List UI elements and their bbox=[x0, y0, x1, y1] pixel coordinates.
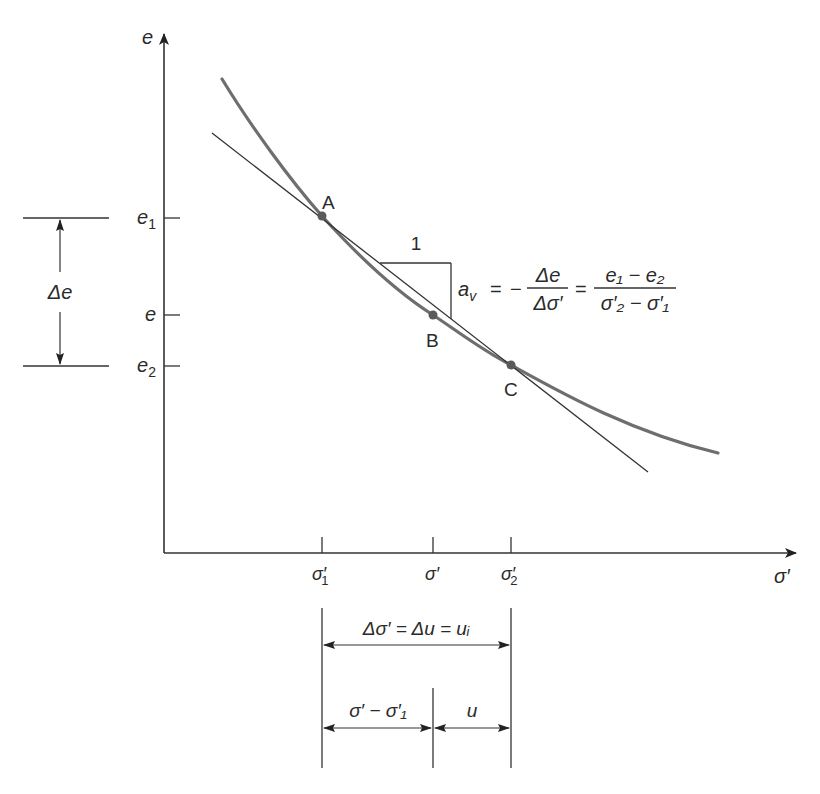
svg-text:σ′₂ − σ′₁: σ′₂ − σ′₁ bbox=[601, 292, 669, 314]
compressibility-formula: av = − Δe Δσ′ = e₁ − e₂ σ′₂ − σ′₁ bbox=[458, 264, 676, 314]
slope-run-label: 1 bbox=[411, 233, 422, 254]
y-ticks bbox=[164, 218, 180, 366]
dimension-left-label: σ′ − σ′₁ bbox=[349, 700, 407, 721]
tick-label-sigma2: σ′2 bbox=[501, 564, 517, 588]
tick-label-e2: e2 bbox=[137, 354, 156, 380]
x-axis-label: σ′ bbox=[774, 565, 791, 587]
consolidation-diagram: e σ′ e1 e e2 σ′1 σ′ σ′2 Δe 1 A B C av bbox=[0, 0, 820, 794]
tick-label-sigma: σ′ bbox=[425, 564, 440, 584]
svg-text:=: = bbox=[490, 278, 502, 300]
tick-label-e: e bbox=[145, 303, 156, 325]
point-c bbox=[507, 361, 516, 370]
dimension-right-label: u bbox=[467, 700, 478, 721]
svg-text:Δe: Δe bbox=[535, 264, 561, 286]
point-b bbox=[429, 311, 438, 320]
chord-line bbox=[212, 133, 648, 472]
svg-text:Δσ′: Δσ′ bbox=[532, 292, 563, 314]
tick-label-sigma1: σ′1 bbox=[312, 564, 328, 588]
x-ticks bbox=[322, 537, 511, 553]
y-axis-label: e bbox=[142, 26, 153, 48]
svg-text:e₁ − e₂: e₁ − e₂ bbox=[606, 264, 665, 286]
svg-text:=: = bbox=[575, 278, 587, 300]
tick-label-e1: e1 bbox=[137, 206, 156, 232]
point-b-label: B bbox=[426, 330, 439, 351]
point-c-label: C bbox=[504, 379, 518, 400]
axes bbox=[164, 34, 796, 553]
delta-e-label: Δe bbox=[47, 281, 73, 303]
dimension-total-label: Δσ′ = Δu = uᵢ bbox=[362, 618, 470, 639]
svg-text:av: av bbox=[458, 278, 477, 304]
svg-text:−: − bbox=[510, 278, 522, 300]
point-a-label: A bbox=[322, 192, 335, 213]
